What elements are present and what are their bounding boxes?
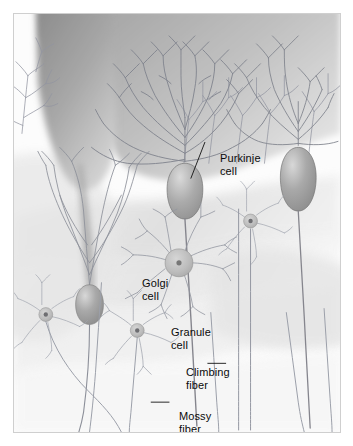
label-purkinje-cell: Purkinje cell	[220, 152, 261, 177]
label-granule-cell: Granule cell	[171, 326, 211, 351]
granule-c-nucleus	[248, 219, 252, 223]
illustration-frame: Purkinje cell Golgi cell Granule cell Cl…	[13, 13, 341, 433]
label-mossy-fiber: Mossy fiber	[179, 410, 211, 433]
cerebellum-illustration	[14, 14, 340, 432]
granule-a-nucleus	[135, 328, 139, 332]
right-folium-mass	[209, 250, 340, 350]
label-golgi-cell: Golgi cell	[142, 277, 168, 302]
purkinje-main-soma	[167, 163, 203, 219]
label-climbing-fiber: Climbing fiber	[186, 366, 230, 391]
granule-b-nucleus	[44, 312, 48, 316]
purkinje-right-soma	[280, 147, 316, 211]
figure-root: Purkinje cell Golgi cell Granule cell Cl…	[0, 0, 353, 446]
golgi-nucleus	[176, 260, 181, 265]
